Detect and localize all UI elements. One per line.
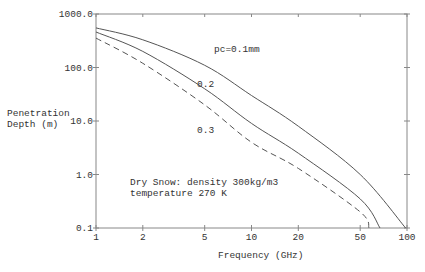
series-line-0.3 bbox=[96, 38, 369, 228]
y-tick-label: 1000.0 bbox=[59, 9, 94, 20]
series-label-0.3: 0.3 bbox=[197, 125, 214, 136]
y-axis-label-line-2: Depth (m) bbox=[7, 119, 70, 130]
y-tick-label: 100.0 bbox=[64, 63, 93, 74]
y-tick-label: 1.0 bbox=[76, 170, 93, 181]
y-tick-label: 0.1 bbox=[76, 223, 93, 234]
x-tick-label: 2 bbox=[140, 232, 146, 243]
y-tick-label: 10.0 bbox=[70, 116, 93, 127]
annotation: Dry Snow: density 300kg/m3 temperature 2… bbox=[130, 177, 278, 199]
series-label-pc-0.1mm: pc=0.1mm bbox=[214, 44, 260, 55]
y-axis-label-line-1: Penetration bbox=[7, 108, 70, 119]
x-tick-label: 1 bbox=[93, 232, 99, 243]
x-tick-label: 10 bbox=[246, 232, 258, 243]
annotation-line-2: temperature 270 K bbox=[130, 188, 278, 199]
series-label-0.2: 0.2 bbox=[197, 79, 214, 90]
y-axis-label: PenetrationDepth (m) bbox=[7, 108, 70, 130]
x-tick-label: 5 bbox=[202, 232, 208, 243]
x-tick-label: 100 bbox=[398, 232, 415, 243]
annotation-line-1: Dry Snow: density 300kg/m3 bbox=[130, 177, 278, 188]
x-tick-label: 20 bbox=[293, 232, 305, 243]
chart: 125102050100 0.11.010.0100.01000.0 pc=0.… bbox=[0, 0, 425, 272]
x-axis-label: Frequency (GHz) bbox=[218, 250, 304, 261]
y-axis: 0.11.010.0100.01000.0 bbox=[59, 9, 410, 234]
x-tick-label: 50 bbox=[354, 232, 366, 243]
